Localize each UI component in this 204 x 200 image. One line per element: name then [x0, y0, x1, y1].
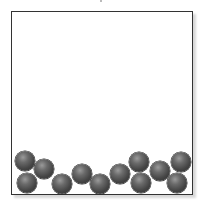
ball-c	[34, 159, 54, 179]
ball-a	[15, 151, 35, 171]
ball-l	[167, 173, 187, 193]
ball-i	[131, 173, 151, 193]
ball-d	[52, 174, 72, 194]
ball-g	[110, 164, 130, 184]
top-mark	[100, 0, 102, 2]
ball-f	[90, 174, 110, 194]
ball-e	[72, 164, 92, 184]
ball-k	[171, 152, 191, 172]
ball-b	[17, 173, 37, 193]
ball-h	[129, 152, 149, 172]
